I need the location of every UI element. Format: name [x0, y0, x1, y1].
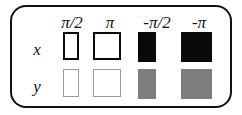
row-label-y: y — [24, 77, 50, 97]
swatch-y-pi-over-2 — [63, 69, 79, 97]
column-header-label: -π — [192, 13, 206, 32]
swatch-y-pi — [93, 69, 121, 97]
column-header-label: π — [106, 13, 115, 32]
column-header-label: π/2 — [61, 13, 83, 32]
swatch-x-pi-over-2 — [63, 32, 79, 60]
column-header-label: -π/2 — [143, 13, 170, 32]
swatch-x-pi — [93, 32, 121, 60]
swatch-x-neg-pi — [181, 32, 212, 62]
column-header-neg-pi: -π — [172, 13, 226, 33]
row-label-x: x — [24, 40, 50, 60]
legend-panel: π/2 π -π/2 -π x y — [10, 5, 232, 108]
column-header-pi: π — [86, 13, 134, 33]
swatch-x-neg-pi-over-2 — [138, 32, 156, 62]
swatch-y-neg-pi-over-2 — [138, 69, 156, 99]
swatch-y-neg-pi — [181, 69, 212, 99]
legend-grid: π/2 π -π/2 -π x y — [12, 7, 230, 106]
